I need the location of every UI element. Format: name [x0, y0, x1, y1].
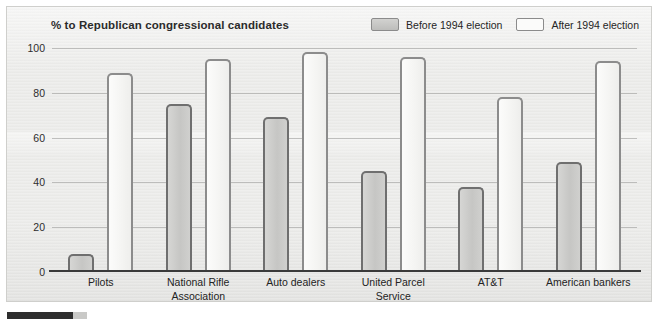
bar-after [595, 61, 621, 272]
x-axis-label: American bankers [540, 276, 638, 303]
bar-groups [52, 48, 637, 272]
x-axis-label-line: Service [345, 290, 443, 304]
bar-before [263, 117, 289, 272]
x-axis-label: Pilots [52, 276, 150, 303]
x-axis-label: National RifleAssociation [150, 276, 248, 303]
bottom-marker-tail [73, 312, 87, 319]
bar-before [556, 162, 582, 272]
x-axis-label: United ParcelService [345, 276, 443, 303]
bar-before [361, 171, 387, 272]
x-axis-baseline [49, 270, 641, 272]
legend-item-before: Before 1994 election [371, 18, 502, 31]
x-axis-label: AT&T [442, 276, 540, 303]
bar-after [302, 52, 328, 272]
x-axis-label-line: AT&T [442, 276, 540, 290]
legend-swatch-after-icon [516, 18, 544, 31]
bar-after [205, 59, 231, 272]
bar-after [400, 57, 426, 272]
chart-title: % to Republican congressional candidates [51, 19, 289, 31]
bar-before [166, 104, 192, 272]
bar-group [150, 48, 248, 272]
ytick-0: 0 [39, 266, 45, 278]
bar-after [107, 73, 133, 272]
x-axis-label-line: National Rifle [150, 276, 248, 290]
x-axis-label-line: Association [150, 290, 248, 304]
bar-group [247, 48, 345, 272]
ytick-20: 20 [33, 221, 45, 233]
legend-swatch-before-icon [371, 18, 399, 31]
ytick-40: 40 [33, 176, 45, 188]
bar-before [458, 187, 484, 272]
x-axis-labels: PilotsNational RifleAssociationAuto deal… [52, 276, 637, 303]
x-axis-label-line: United Parcel [345, 276, 443, 290]
x-axis-label-line: Auto dealers [247, 276, 345, 290]
chart-panel: % to Republican congressional candidates… [6, 6, 652, 302]
ytick-80: 80 [33, 87, 45, 99]
bar-group [540, 48, 638, 272]
bar-group [442, 48, 540, 272]
chart-legend: Before 1994 election After 1994 election [371, 18, 639, 31]
bar-group [345, 48, 443, 272]
legend-item-after: After 1994 election [516, 18, 639, 31]
x-axis-label: Auto dealers [247, 276, 345, 303]
chart-screenshot: % to Republican congressional candidates… [0, 0, 658, 321]
legend-label-after: After 1994 election [551, 19, 639, 31]
plot-area: 100 80 60 40 20 0 [52, 48, 637, 272]
ytick-60: 60 [33, 132, 45, 144]
ytick-100: 100 [27, 42, 45, 54]
legend-label-before: Before 1994 election [406, 19, 502, 31]
bottom-marker-bar [7, 312, 73, 319]
bar-group [52, 48, 150, 272]
bar-after [497, 97, 523, 272]
x-axis-label-line: American bankers [540, 276, 638, 290]
x-axis-label-line: Pilots [52, 276, 150, 290]
